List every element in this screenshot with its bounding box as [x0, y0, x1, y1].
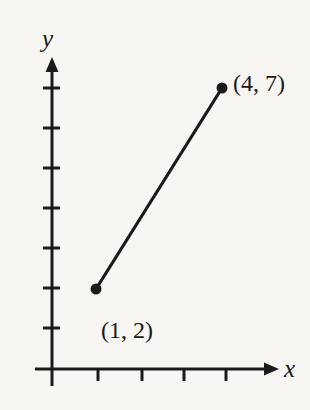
plot-canvas — [0, 0, 310, 410]
data-point-1-2 — [91, 284, 102, 295]
data-point-4-7 — [217, 83, 228, 94]
y-axis-arrowhead — [46, 57, 59, 72]
line-segment — [96, 88, 222, 289]
x-axis-label: x — [284, 356, 295, 381]
x-axis-ticks — [98, 369, 226, 381]
x-axis-arrowhead — [264, 363, 279, 376]
point-label-4-7: (4, 7) — [233, 71, 285, 95]
y-axis-label: y — [42, 26, 53, 51]
point-label-1-2: (1, 2) — [101, 318, 153, 342]
coordinate-plane-figure: y x (4, 7) (1, 2) — [0, 0, 310, 410]
